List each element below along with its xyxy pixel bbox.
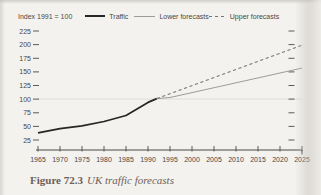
figure-number: Figure 72.3	[30, 174, 83, 186]
lower-forecast-line-swatch	[134, 16, 155, 17]
legend-item-upper-forecasts: Upper forecasts	[209, 12, 279, 21]
upper-forecast-line-swatch	[209, 16, 226, 17]
traffic-line-swatch	[85, 15, 105, 17]
x-tick-label: 1985	[114, 155, 138, 164]
x-tick-label: 1990	[136, 155, 160, 164]
legend-item-traffic: Traffic	[85, 12, 128, 21]
legend-label-traffic: Traffic	[109, 12, 128, 21]
x-tick-label: 2005	[202, 155, 226, 164]
chart-legend: Index 1991 = 100 Traffic Lower forecasts…	[18, 11, 279, 21]
x-tick-label: 1975	[70, 155, 94, 164]
figure-title: UK traffic forecasts	[87, 174, 174, 186]
x-tick-label: 1965	[26, 155, 50, 164]
traffic-chart-canvas	[0, 0, 321, 195]
figure-page: Index 1991 = 100 Traffic Lower forecasts…	[0, 0, 321, 195]
legend-item-lower-forecasts: Lower forecasts	[134, 12, 208, 21]
page-edge-top	[0, 0, 321, 4]
legend-label-upper-forecasts: Upper forecasts	[230, 12, 279, 21]
page-edge-left	[0, 0, 5, 195]
y-axis-labels: 255075100125150175200225	[0, 0, 40, 195]
x-tick-label: 2020	[268, 155, 292, 164]
x-tick-label: 2000	[180, 155, 204, 164]
x-tick-label: 1995	[158, 155, 182, 164]
figure-caption: Figure 72.3UK traffic forecasts	[30, 174, 174, 187]
x-axis-labels: 1965197019751980198519901995200020052010…	[0, 155, 321, 165]
page-edge-right	[295, 0, 321, 195]
legend-label-lower-forecasts: Lower forecasts	[159, 12, 208, 21]
x-tick-label: 1980	[92, 155, 116, 164]
x-tick-label: 1970	[48, 155, 72, 164]
x-tick-label: 2015	[246, 155, 270, 164]
x-tick-label: 2010	[224, 155, 248, 164]
